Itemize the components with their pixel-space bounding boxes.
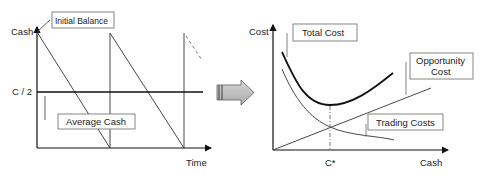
initial-balance-label: Initial Balance [55, 16, 108, 26]
c-half-label: C / 2 [12, 86, 32, 97]
x-axis-label-cash: Cash [420, 157, 442, 168]
trading-costs-label: Trading Costs [376, 117, 435, 128]
optimum-label-c-star: C* [325, 157, 336, 168]
total-cost-curve [282, 52, 393, 105]
total-cost-label: Total Cost [302, 27, 345, 38]
opportunity-cost-label-line1: Opportunity [416, 55, 465, 66]
transition-arrow-icon [217, 80, 254, 105]
x-axis-label-time: Time [186, 157, 207, 168]
sawtooth-continuation-dashed [186, 36, 202, 60]
cash-management-diagram: Cash Time C / 2 Initial Balance Average … [0, 0, 492, 175]
cash-balance-chart: Cash Time C / 2 Initial Balance Average … [11, 12, 218, 168]
cash-sawtooth-line [37, 32, 184, 148]
cost-chart: Cost Cash C* Total Cost Opportunity Cost… [249, 24, 473, 168]
y-axis-label-cost: Cost [249, 26, 269, 37]
average-cash-label: Average Cash [66, 116, 126, 127]
y-axis-label-cash: Cash [11, 26, 33, 37]
opportunity-cost-label-line2: Cost [431, 66, 451, 77]
initial-balance-leader [37, 20, 50, 32]
